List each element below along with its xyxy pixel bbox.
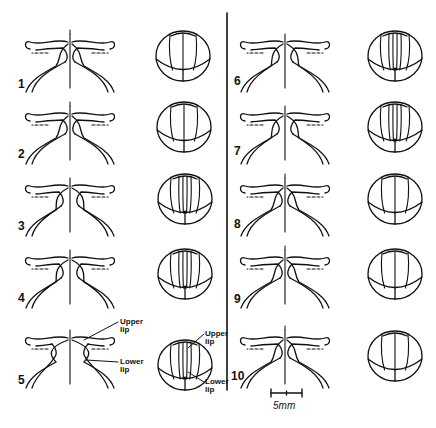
sphere-meridian [196,252,199,288]
lower-lip-curve [36,344,56,358]
wall-inner [79,206,108,236]
wall-inner [247,134,277,164]
sphere-meridian [381,252,384,288]
sphere-blastopore-dot [393,138,396,141]
sphere-cap [173,176,197,179]
panel-label-4: 4 [18,292,25,304]
panel-label-5: 5 [18,374,25,386]
panel-label-7: 7 [234,145,241,157]
sphere-meridian [194,105,197,141]
annotation-mouth-lower-lip: Lower lip [120,358,144,374]
sphere-blastopore-dot [183,210,186,213]
sphere-cap [383,104,407,107]
wall-outer [287,44,329,92]
wall-outer [241,340,283,388]
upper-lip-curve [287,41,330,49]
annotation-sphere-upper-lip: Upper lip [205,330,228,346]
panel-label-8: 8 [234,218,241,230]
sphere-meridian [170,343,173,379]
annotation-text: lip [120,326,143,334]
wall-inner [293,134,323,164]
sphere-meridian [179,252,180,288]
upper-lip-curve [287,113,330,121]
sphere-meridian [170,252,173,288]
wall-outer [287,188,329,236]
annotation-sphere-lower-lip: Lower lip [205,378,229,394]
sphere-meridian [406,105,409,141]
sphere-meridian [170,105,173,141]
sphere-blastopore-dot [183,376,186,379]
sphere-meridian [179,177,180,213]
sphere-meridian [196,177,199,213]
wall-inner [32,358,54,388]
sphere-blastopore-dot [183,285,186,288]
wall-outer [72,44,114,92]
sphere-meridian [170,177,173,213]
leader-line-lower-lip [86,360,118,362]
wall-outer [72,116,114,164]
sphere-meridian [380,105,383,141]
lower-lip-curve [84,344,104,358]
wall-inner [32,278,61,308]
wall-outer [26,44,68,92]
wall-outer [241,116,283,164]
panel-label-3: 3 [18,220,25,232]
wall-outer [26,116,68,164]
panel-label-6: 6 [234,75,241,87]
sphere-meridian [190,177,191,213]
sphere-meridian [196,343,199,379]
upper-lip-curve [26,337,69,345]
wall-outer [241,44,283,92]
upper-lip-curve [72,337,115,345]
diagram-drawing [0,0,436,428]
wall-outer [287,260,329,308]
sphere-blastopore-dot [393,67,396,70]
annotation-text: lip [120,366,144,374]
panel-label-1: 1 [18,78,25,90]
wall-outer [26,340,68,388]
sphere-meridian [193,34,196,70]
sphere-meridian [380,34,383,70]
sphere-meridian [405,177,408,213]
wall-outer [287,340,329,388]
annotation-text: lip [205,386,229,394]
sphere-meridian [406,34,409,70]
wall-outer [241,260,283,308]
sphere-cap [173,251,197,254]
annotation-mouth-upper-lip: Upper lip [120,318,143,334]
panel-label-2: 2 [18,148,25,160]
wall-outer [72,340,114,388]
upper-lip-curve [241,113,284,121]
wall-inner [86,358,108,388]
panel-label-10: 10 [231,370,244,382]
sphere-meridian [190,252,191,288]
wall-inner [293,62,323,92]
wall-inner [79,278,108,308]
sphere-meridian [381,334,384,370]
sphere-meridian [400,105,401,141]
sphere-meridian [405,252,408,288]
scale-bar-label: 5mm [273,400,295,411]
annotation-text: lip [205,338,228,346]
sphere-meridian [400,34,401,70]
sphere-meridian [381,177,384,213]
upper-lip-curve [241,41,284,49]
sphere-meridian [389,34,390,70]
wall-outer [287,116,329,164]
sphere-meridian [169,34,172,70]
wall-outer [241,188,283,236]
sphere-meridian [389,105,390,141]
wall-inner [247,62,277,92]
wall-inner [32,206,61,236]
sphere-meridian [405,334,408,370]
panel-label-9: 9 [234,293,241,305]
sphere-cap [383,33,407,36]
figure-canvas: 12345678910 Upper lip Lower lip Upper li… [0,0,436,428]
sphere-meridian [179,343,180,379]
